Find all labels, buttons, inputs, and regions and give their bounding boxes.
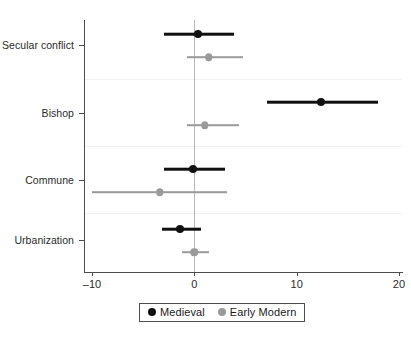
row-separator: [84, 79, 402, 80]
x-axis-tick-label: –10: [83, 278, 102, 290]
x-axis-tick-label: 0: [191, 278, 197, 290]
filled-circle-icon: [218, 308, 226, 316]
y-axis-category-label: Urbanization: [14, 234, 74, 246]
point-estimate-marker[interactable]: [194, 30, 202, 38]
legend-label-medieval: Medieval: [160, 306, 205, 318]
confidence-interval-bar: [187, 56, 243, 58]
point-estimate-marker[interactable]: [317, 98, 325, 106]
x-axis-tick: [297, 272, 298, 276]
confidence-interval-bar: [187, 124, 239, 126]
point-estimate-marker[interactable]: [201, 121, 209, 129]
y-axis-tick: [79, 240, 84, 241]
x-axis-tick-label: 20: [393, 278, 405, 290]
x-axis-tick-label: 10: [290, 278, 302, 290]
x-axis-tick: [92, 272, 93, 276]
y-axis-category-label: Secular conflict: [2, 39, 74, 51]
y-axis-tick: [79, 180, 84, 181]
legend-entry-early-modern[interactable]: Early Modern: [218, 306, 297, 318]
point-estimate-marker[interactable]: [205, 53, 213, 61]
x-axis-tick: [194, 272, 195, 276]
row-separator: [84, 213, 402, 214]
y-axis-category-label: Commune: [25, 174, 74, 186]
row-separator: [84, 146, 402, 147]
y-axis-tick: [79, 45, 84, 46]
point-estimate-marker[interactable]: [156, 188, 164, 196]
y-axis-tick: [79, 113, 84, 114]
x-axis-tick: [399, 272, 400, 276]
chart-legend: Medieval Early Modern: [139, 303, 305, 322]
y-axis-line: [84, 20, 85, 273]
y-axis-category-label: Bishop: [42, 107, 74, 119]
point-estimate-marker[interactable]: [189, 165, 197, 173]
x-axis-line: [84, 272, 403, 273]
coefficient-plot-figure: –1001020 Secular conflictBishopCommuneUr…: [0, 0, 411, 340]
legend-entry-medieval[interactable]: Medieval: [148, 306, 205, 318]
point-estimate-marker[interactable]: [176, 225, 184, 233]
zero-reference-line: [194, 20, 195, 272]
filled-circle-icon: [148, 308, 156, 316]
point-estimate-marker[interactable]: [191, 248, 199, 256]
legend-label-early-modern: Early Modern: [230, 306, 297, 318]
